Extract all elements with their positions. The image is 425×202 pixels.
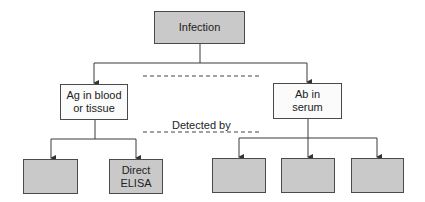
antibody-label: Ab in serum (292, 88, 323, 114)
antibody-method-box-3 (351, 158, 404, 193)
antibody-method-box-2 (281, 158, 335, 193)
antigen-method-box-1 (23, 159, 78, 194)
infection-label: Infection (179, 21, 221, 34)
antibody-box: Ab in serum (273, 83, 342, 119)
antigen-label: Ag in blood or tissue (66, 89, 121, 115)
direct-elisa-label: Direct ELISA (120, 164, 151, 190)
detected-by-label: Detected by (172, 119, 231, 131)
antigen-method-box-2: Direct ELISA (109, 159, 163, 194)
antibody-method-box-1 (212, 158, 266, 193)
antigen-box: Ag in blood or tissue (60, 84, 128, 120)
infection-box: Infection (154, 11, 245, 44)
